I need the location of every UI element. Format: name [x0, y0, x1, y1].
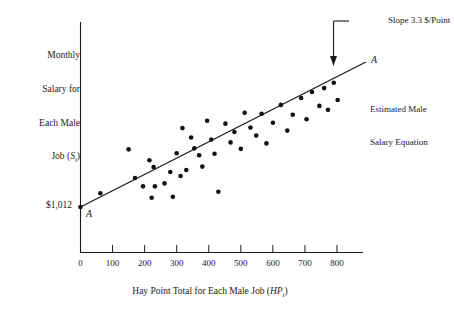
scatter-point: [200, 164, 205, 169]
scatter-point: [192, 146, 197, 151]
scatter-point: [285, 128, 290, 133]
scatter-point: [248, 125, 253, 130]
scatter-point: [264, 141, 269, 146]
scatter-point: [141, 184, 146, 189]
y-axis-title-line3: Each Male: [14, 118, 80, 129]
scatter-point: [279, 103, 284, 108]
scatter-point: [212, 151, 217, 156]
scatter-point: [126, 147, 131, 152]
scatter-point: [178, 174, 183, 179]
scatter-point: [216, 189, 221, 194]
scatter-point: [335, 98, 340, 103]
scatter-point: [153, 184, 158, 189]
scatter-point: [271, 120, 276, 125]
regression-line-segment: [81, 62, 366, 207]
equation-annotation: Estimated Male Salary Equation: [370, 81, 428, 171]
scatter-point: [310, 90, 315, 95]
x-axis-tick-label: 400: [196, 258, 222, 269]
x-axis-tick-label: 700: [292, 258, 318, 269]
x-axis-symbol-suffix: ): [285, 286, 288, 296]
equation-annotation-line1: Estimated Male: [370, 104, 428, 115]
scatter-point: [322, 86, 327, 91]
scatter-point: [168, 170, 173, 175]
scatter-point: [171, 194, 176, 199]
scatter-point: [209, 137, 214, 142]
slope-annotation: Slope 3.3 $/Point: [388, 15, 450, 26]
scatter-point: [174, 151, 179, 156]
scatter-point: [223, 121, 228, 126]
scatter-point: [180, 126, 185, 131]
y-axis-title-line2: Salary for: [14, 84, 80, 95]
y-axis-symbol-prefix: Job (: [51, 151, 70, 161]
scatter-point: [184, 168, 189, 173]
scatter-point: [197, 153, 202, 158]
x-axis-tick-label: 0: [68, 258, 94, 269]
x-axis-symbol: HP: [270, 286, 283, 296]
scatter-points: [98, 80, 340, 200]
scatter-point: [228, 140, 233, 145]
scatter-point: [326, 108, 331, 113]
y-axis-title-line1: Monthly: [14, 50, 80, 61]
scatter-point: [151, 165, 156, 170]
x-axis-tick-label: 500: [228, 258, 254, 269]
axes: [80, 22, 363, 253]
y-intercept-label: $1,012: [20, 200, 72, 211]
slope-callout: [330, 21, 349, 66]
y-axis-title-line4: Job (Si): [14, 151, 80, 164]
x-axis-tick-label: 600: [260, 258, 286, 269]
y-axis-title: Monthly Salary for Each Male Job (Si): [14, 28, 80, 187]
scatter-point: [290, 112, 295, 117]
line-label-right-a: A: [371, 54, 377, 66]
scatter-point: [162, 181, 167, 186]
scatter-point: [242, 111, 247, 116]
equation-annotation-line2: Salary Equation: [370, 137, 428, 148]
y-axis-symbol-suffix: ): [77, 151, 80, 161]
scatter-point: [232, 130, 237, 135]
scatter-point: [98, 191, 103, 196]
scatter-point: [205, 118, 210, 123]
x-axis-ticks: [81, 245, 338, 253]
scatter-point: [259, 111, 264, 116]
scatter-point: [239, 147, 244, 152]
x-axis-title-prefix: Hay Point Total for Each Male Job (: [132, 286, 270, 296]
scatter-point: [133, 176, 138, 181]
regression-line: [78, 62, 366, 209]
scatter-point: [149, 195, 154, 200]
scatter-point: [299, 96, 304, 101]
scatter-point: [189, 135, 194, 140]
callout-arrowhead: [330, 56, 337, 66]
x-axis-tick-label: 100: [100, 258, 126, 269]
scatter-point: [317, 104, 322, 109]
x-axis-tick-label: 300: [164, 258, 190, 269]
scatter-point: [147, 158, 152, 163]
scatter-point: [304, 117, 309, 122]
scatter-point: [254, 133, 259, 138]
line-label-left-a: A: [86, 208, 92, 220]
scatter-plot-figure: Monthly Salary for Each Male Job (Si) Ha…: [0, 0, 454, 310]
x-axis-title: Hay Point Total for Each Male Job (HPi): [0, 286, 420, 299]
x-axis-tick-label: 800: [324, 258, 350, 269]
scatter-point: [331, 80, 336, 85]
x-axis-tick-label: 200: [132, 258, 158, 269]
intercept-marker: [78, 205, 83, 210]
